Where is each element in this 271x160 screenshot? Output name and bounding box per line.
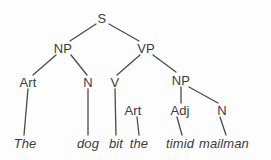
tree-edge xyxy=(71,55,87,75)
tree-edge xyxy=(189,87,218,103)
tree-edge xyxy=(70,24,96,41)
tree-edge xyxy=(177,117,182,135)
tree-edge xyxy=(117,55,140,75)
syntax-tree-diagram: SNPVPArtNVNPArtAdjN Thedogbitthetimidmai… xyxy=(0,0,271,160)
tree-node-adj: Adj xyxy=(170,104,189,117)
tree-node-art1: Art xyxy=(20,76,37,89)
tree-edge xyxy=(220,117,226,135)
tree-terminal-the: the xyxy=(130,137,148,150)
tree-terminal-dog: dog xyxy=(77,137,99,150)
tree-node-vp: VP xyxy=(137,42,155,55)
tree-node-np1: NP xyxy=(54,42,72,55)
tree-edge xyxy=(153,55,176,72)
tree-terminal-timid: timid xyxy=(166,137,194,150)
tree-edge xyxy=(24,89,28,135)
tree-edge xyxy=(109,24,139,41)
tree-terminal-bit: bit xyxy=(109,137,123,150)
tree-node-art2: Art xyxy=(125,104,142,117)
tree-node-n1: N xyxy=(83,76,93,89)
tree-terminal-the: The xyxy=(14,137,37,150)
tree-terminal-mailman: mailman xyxy=(199,137,249,150)
tree-node-np2: NP xyxy=(172,74,190,87)
tree-edge xyxy=(33,55,56,75)
tree-node-v: V xyxy=(111,76,120,89)
tree-node-s: S xyxy=(98,12,107,25)
tree-edge xyxy=(137,117,139,135)
tree-edge xyxy=(115,89,116,135)
tree-node-n2: N xyxy=(217,104,227,117)
